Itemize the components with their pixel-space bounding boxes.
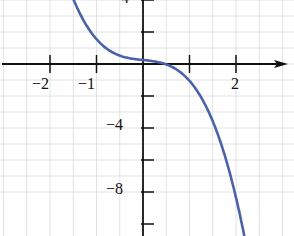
y-tick-label-4: 4 xyxy=(121,0,129,6)
y-tick-label-neg8: −8 xyxy=(106,181,123,197)
plot-area xyxy=(0,0,294,236)
chart: −2 −1 2 4 −4 −8 xyxy=(0,0,294,236)
x-tick-label-neg2: −2 xyxy=(32,76,49,92)
y-tick-label-neg4: −4 xyxy=(106,117,123,133)
function-curve xyxy=(62,0,252,236)
x-tick-label-2: 2 xyxy=(231,76,239,92)
x-tick-label-neg1: −1 xyxy=(78,76,95,92)
